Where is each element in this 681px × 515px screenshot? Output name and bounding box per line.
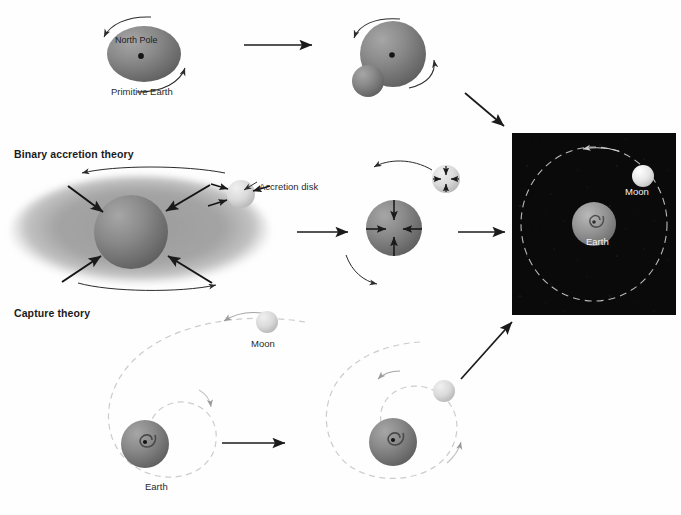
panel-proto-earth-and-proto-moon-accreting xyxy=(346,161,460,284)
label-moon-result: Moon xyxy=(625,186,649,197)
earth-core-dot-icon xyxy=(143,440,147,444)
earth-core-dot-icon xyxy=(592,220,596,224)
label-north-pole: North Pole xyxy=(115,35,158,45)
diagram-vector-layer xyxy=(0,0,681,515)
moon-sphere-icon xyxy=(256,311,278,333)
label-earth-result: Earth xyxy=(586,236,609,247)
panel-earth-moon-system-in-space xyxy=(512,133,676,315)
theory-label-binary-accretion: Binary accretion theory xyxy=(14,148,134,160)
curved-rotation-arrow-icon xyxy=(346,255,377,284)
moon-sphere-icon xyxy=(433,380,455,402)
orbit-direction-arrow-icon xyxy=(199,390,211,407)
label-primitive-earth: Primitive Earth xyxy=(111,86,173,97)
arrow-down-right-icon xyxy=(465,93,504,126)
panel-primitive-earth-rotating xyxy=(104,17,185,92)
label-accretion-disk: Accretion disk xyxy=(259,181,318,192)
rotation-axis-dot-icon xyxy=(138,53,144,59)
panel-moon-on-wide-approach-spiral xyxy=(108,311,305,477)
earth-core-dot-icon xyxy=(391,438,395,442)
panel-moon-on-tightening-capture-spiral xyxy=(326,342,461,478)
curved-rotation-arrow-icon xyxy=(374,161,432,170)
moon-sphere-icon xyxy=(632,165,654,187)
curved-rotation-arrow-icon xyxy=(82,167,225,173)
label-moon-capture: Moon xyxy=(251,338,275,349)
fission-bulge-icon xyxy=(352,65,384,97)
figure-canvas: Binary accretion theory Capture theory N… xyxy=(0,0,681,515)
panel-accretion-disk-around-proto-earth xyxy=(10,167,270,290)
orbit-direction-arrow-icon xyxy=(378,371,400,379)
label-earth-capture: Earth xyxy=(145,481,168,492)
earth-sphere-icon xyxy=(94,195,168,269)
moon-sphere-icon xyxy=(227,180,255,208)
rotation-axis-dot-icon xyxy=(389,52,395,58)
theory-label-capture: Capture theory xyxy=(14,307,90,319)
panel-earth-with-fission-bulge xyxy=(352,19,434,97)
arrow-up-right-icon xyxy=(461,322,512,379)
